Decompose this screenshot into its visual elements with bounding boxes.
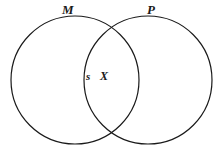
circle-set-m — [11, 16, 139, 144]
label-set-p: P — [147, 3, 155, 16]
label-point-x: X — [100, 70, 108, 82]
venn-diagram: M P s X — [0, 0, 223, 151]
label-set-m: M — [62, 3, 74, 16]
label-point-s: s — [86, 71, 90, 82]
venn-diagram-svg — [0, 0, 223, 151]
